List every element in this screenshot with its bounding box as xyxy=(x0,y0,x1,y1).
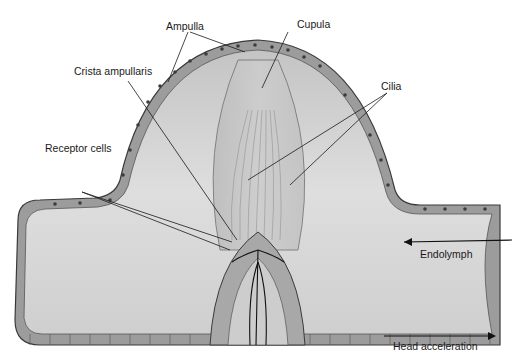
label-endolymph: Endolymph xyxy=(420,248,473,260)
label-crista-ampullaris: Crista ampullaris xyxy=(74,65,152,77)
label-cilia: Cilia xyxy=(381,80,401,92)
label-ampulla: Ampulla xyxy=(166,20,204,32)
label-receptor-cells: Receptor cells xyxy=(45,142,112,154)
ampulla-diagram xyxy=(0,0,522,356)
label-cupula: Cupula xyxy=(297,18,330,30)
label-head-acceleration: Head acceleration xyxy=(393,340,478,352)
